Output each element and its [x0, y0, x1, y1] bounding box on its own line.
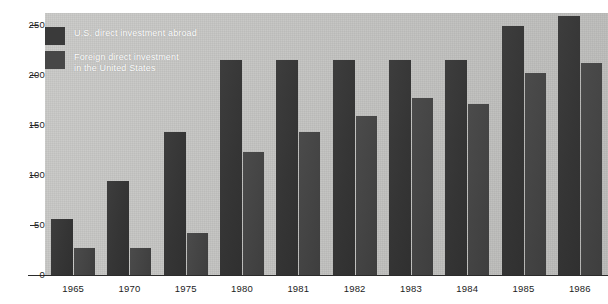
- legend-swatch-icon-us: [45, 27, 65, 45]
- x-axis-tick-label-1983: 1983: [383, 283, 439, 294]
- bar-1985-foreign-in-us: [525, 73, 546, 275]
- x-axis-line: [28, 275, 608, 276]
- chart-legend: U.S. direct investment abroad Foreign di…: [45, 27, 295, 79]
- y-axis-tick-mark: [30, 225, 38, 226]
- x-axis-tick-label-1980: 1980: [214, 283, 270, 294]
- y-axis-tick-mark: [30, 125, 38, 126]
- bar-1985-us-abroad: [502, 26, 524, 275]
- legend-item-foreign-investment-us: Foreign direct investment in the United …: [45, 51, 295, 73]
- bar-1980-us-abroad: [220, 60, 242, 275]
- x-axis-tick-label-1970: 1970: [101, 283, 157, 294]
- legend-label-us: U.S. direct investment abroad: [74, 27, 197, 39]
- x-axis-tick-label-1975: 1975: [158, 283, 214, 294]
- y-axis-tick-mark: [30, 175, 38, 176]
- y-axis-tick-mark: [30, 75, 38, 76]
- bar-1981-us-abroad: [276, 60, 298, 275]
- bar-1975-us-abroad: [164, 132, 186, 275]
- bar-1980-foreign-in-us: [243, 152, 264, 275]
- bar-1983-foreign-in-us: [412, 98, 433, 275]
- y-axis-tick-0: 0: [0, 268, 62, 282]
- bar-1986-us-abroad: [558, 16, 580, 275]
- legend-label-foreign-line1: Foreign direct investment: [74, 52, 179, 62]
- bar-1975-foreign-in-us: [187, 233, 208, 275]
- bar-1984-foreign-in-us: [468, 104, 489, 275]
- bar-1984-us-abroad: [445, 60, 467, 275]
- x-axis-tick-label-1981: 1981: [270, 283, 326, 294]
- x-axis-tick-label-1965: 1965: [45, 283, 101, 294]
- legend-item-us-investment-abroad: U.S. direct investment abroad: [45, 27, 295, 45]
- bar-1982-us-abroad: [333, 60, 355, 275]
- bar-1965-foreign-in-us: [74, 248, 95, 275]
- x-axis-tick-label-1982: 1982: [327, 283, 383, 294]
- legend-label-foreign: Foreign direct investment in the United …: [74, 51, 179, 73]
- bar-1982-foreign-in-us: [356, 116, 377, 275]
- bar-1970-foreign-in-us: [130, 248, 151, 275]
- legend-label-us-line1: U.S. direct investment abroad: [74, 28, 197, 38]
- y-axis-tick-label: 0: [40, 270, 45, 280]
- x-axis-tick-label-1986: 1986: [552, 283, 608, 294]
- legend-swatch-icon-foreign: [45, 51, 65, 69]
- legend-label-foreign-line2: in the United States: [74, 63, 156, 73]
- x-axis-tick-label-1985: 1985: [496, 283, 552, 294]
- bar-1986-foreign-in-us: [581, 63, 602, 275]
- x-axis-tick-label-1984: 1984: [439, 283, 495, 294]
- bar-1983-us-abroad: [389, 60, 411, 275]
- bar-chart-figure: 050100150200250 196519701975198019811982…: [0, 0, 608, 304]
- bar-1970-us-abroad: [107, 181, 129, 275]
- y-axis-tick-mark: [30, 25, 38, 26]
- bar-1981-foreign-in-us: [299, 132, 320, 275]
